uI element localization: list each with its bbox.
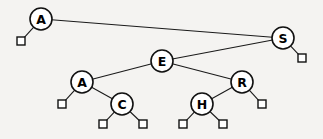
tree-null-leaf	[258, 100, 266, 108]
tree-edge	[211, 87, 233, 99]
tree-diagram-svg: ASEARCH	[0, 0, 323, 139]
node-circle	[30, 8, 52, 30]
tree-edge	[92, 64, 152, 80]
tree-edge	[172, 64, 232, 80]
nodes-layer: ASEARCH	[30, 8, 294, 115]
tree-null-leaf	[298, 54, 306, 62]
node-circle	[191, 93, 213, 115]
node-circle	[71, 71, 93, 93]
tree-node-h: H	[191, 93, 213, 115]
tree-node-c: C	[111, 93, 133, 115]
node-circle	[272, 27, 294, 49]
tree-node-r: R	[231, 71, 253, 93]
tree-null-leaf	[17, 37, 25, 45]
node-circle	[231, 71, 253, 93]
tree-diagram-canvas: ASEARCH	[0, 0, 323, 139]
node-circle	[151, 50, 173, 72]
tree-null-leaf	[219, 120, 227, 128]
tree-edge	[172, 40, 272, 59]
tree-null-leaf	[99, 120, 107, 128]
tree-node-a: A	[30, 8, 52, 30]
tree-null-leaf	[58, 100, 66, 108]
node-circle	[111, 93, 133, 115]
tree-node-e: E	[151, 50, 173, 72]
tree-node-s: S	[272, 27, 294, 49]
tree-node-a: A	[71, 71, 93, 93]
tree-edge	[91, 87, 113, 99]
tree-null-leaf	[179, 120, 187, 128]
tree-null-leaf	[139, 120, 147, 128]
tree-edge	[51, 20, 272, 37]
